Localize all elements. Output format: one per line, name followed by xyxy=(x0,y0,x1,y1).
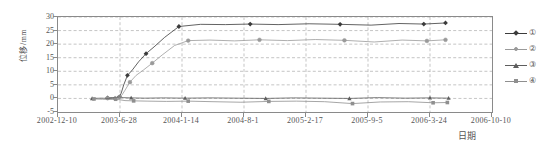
data-point-marker xyxy=(186,39,190,43)
data-point-marker xyxy=(338,22,343,27)
data-point-marker xyxy=(150,61,154,65)
series-line-1 xyxy=(108,23,446,98)
y-axis-tick-label: 30 xyxy=(30,12,54,21)
y-axis-tick-label: 15 xyxy=(30,52,54,61)
legend-item-1[interactable]: ① xyxy=(505,26,557,40)
x-axis-title: 日期 xyxy=(458,129,476,142)
legend-line-swatch xyxy=(505,81,527,82)
chart-legend: ①②③④ xyxy=(505,26,557,92)
x-axis-tick-label: 2005-2-17 xyxy=(287,116,323,125)
y-axis-tick-label: -5 xyxy=(30,107,54,116)
x-axis-tick-label: 2006-10-10 xyxy=(471,116,511,125)
y-axis-tick-labels: -5051015202530 xyxy=(30,16,54,113)
x-axis-tick-label: 2006-3-24 xyxy=(411,116,447,125)
x-axis-tick-label: 2005-9-5 xyxy=(351,116,383,125)
series-line-2 xyxy=(108,40,446,99)
legend-item-3[interactable]: ③ xyxy=(505,58,557,72)
x-axis-tick-label: 2003-6-28 xyxy=(101,116,137,125)
data-point-marker xyxy=(186,99,190,103)
legend-marker-triangle-icon xyxy=(513,63,519,68)
x-axis-tick-label: 2004-1-14 xyxy=(163,116,199,125)
series-line-4 xyxy=(94,99,447,104)
data-point-marker xyxy=(421,22,426,27)
data-point-marker xyxy=(258,38,262,42)
chart-figure: 位移/mm -5051015202530 2002-12-102003-6-28… xyxy=(0,0,559,150)
legend-label: ③ xyxy=(529,61,536,69)
y-axis-tick-label: 10 xyxy=(30,66,54,75)
legend-label: ① xyxy=(529,29,536,37)
plot-inner xyxy=(58,17,492,112)
data-point-marker xyxy=(248,22,253,27)
x-axis-tick-label: 2002-12-10 xyxy=(37,116,77,125)
y-axis-tick-label: 20 xyxy=(30,39,54,48)
legend-marker-diamond-icon xyxy=(513,30,519,36)
y-axis-title: 位移/mm xyxy=(17,16,28,76)
plot-area xyxy=(57,16,493,113)
x-axis-tick-label: 2004-8-1 xyxy=(227,116,259,125)
data-point-marker xyxy=(351,102,355,106)
data-point-marker xyxy=(343,38,347,42)
data-point-marker xyxy=(444,38,448,42)
x-axis-tick-labels: 2002-12-102003-6-282004-1-142004-8-12005… xyxy=(0,116,559,130)
data-point-marker xyxy=(446,101,450,105)
legend-label: ④ xyxy=(529,77,536,85)
legend-line-swatch xyxy=(505,65,527,66)
legend-item-2[interactable]: ② xyxy=(505,42,557,56)
legend-line-swatch xyxy=(505,33,527,34)
series-line-3 xyxy=(92,97,449,99)
data-point-marker xyxy=(132,99,136,103)
legend-line-swatch xyxy=(505,49,527,50)
legend-label: ② xyxy=(529,45,536,53)
data-point-marker xyxy=(92,97,96,101)
y-axis-tick-label: 5 xyxy=(30,79,54,88)
data-point-marker xyxy=(443,21,448,26)
data-point-marker xyxy=(425,39,429,43)
legend-marker-circle-icon xyxy=(514,47,518,51)
data-point-marker xyxy=(128,80,132,84)
y-axis-tick-label: 0 xyxy=(30,93,54,102)
chart-canvas xyxy=(58,17,492,112)
legend-item-4[interactable]: ④ xyxy=(505,74,557,88)
legend-marker-square-icon xyxy=(514,79,518,83)
data-point-marker xyxy=(267,100,271,104)
y-axis-tick-label: 25 xyxy=(30,25,54,34)
data-point-marker xyxy=(114,97,118,101)
data-point-marker xyxy=(431,101,435,105)
